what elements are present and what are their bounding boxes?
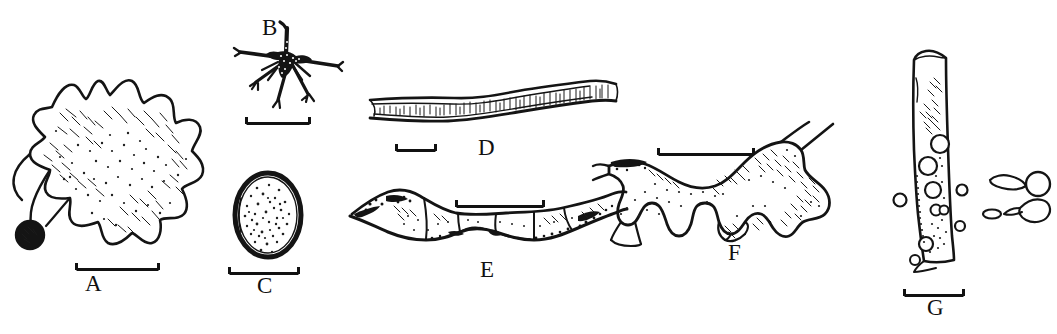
panel-e-specimen <box>348 180 628 260</box>
figure-label-d: D <box>478 136 495 159</box>
figure-label-f: F <box>728 241 741 264</box>
panel-g-specimen <box>890 48 1050 290</box>
specimen-f-dark-margin <box>611 159 647 171</box>
scalebar-d <box>395 143 437 153</box>
specimen-f-body <box>593 122 833 246</box>
illustration-plate: A <box>0 0 1057 334</box>
panel-c-specimen <box>225 168 310 266</box>
scalebar-f <box>657 147 755 157</box>
specimen-b-body <box>234 22 343 108</box>
specimen-g-cysts <box>894 135 950 265</box>
panel-d-specimen <box>368 78 618 140</box>
specimen-a-outline <box>13 80 203 249</box>
figure-label-a: A <box>85 272 102 295</box>
figure-label-b: B <box>262 16 278 39</box>
specimen-a-stipple <box>55 130 187 226</box>
figure-label-g: G <box>927 296 944 319</box>
specimen-g-detached-bodies <box>940 172 1051 231</box>
scalebar-b <box>245 116 311 126</box>
specimen-d-body <box>370 81 618 122</box>
specimen-a-shading <box>44 107 187 234</box>
scalebar-e <box>455 199 545 209</box>
figure-label-c: C <box>257 274 273 297</box>
specimen-g-shading <box>920 78 942 134</box>
specimen-f-shading <box>649 150 819 238</box>
panel-b-specimen <box>234 22 344 112</box>
panel-a-specimen <box>0 55 220 265</box>
figure-label-e: E <box>480 258 495 281</box>
